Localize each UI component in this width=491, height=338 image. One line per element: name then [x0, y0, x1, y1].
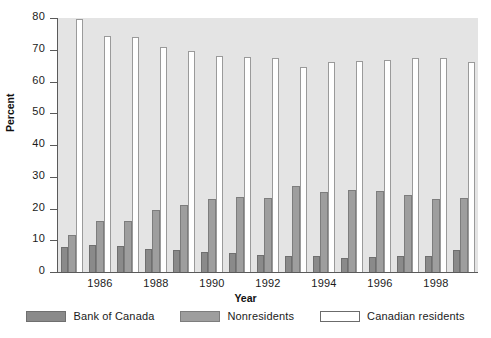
- x-axis-tick-label: 1986: [80, 277, 120, 289]
- bar: [432, 199, 439, 272]
- x-axis-tick-label: 1994: [304, 277, 344, 289]
- bar: [257, 255, 264, 272]
- bar: [425, 256, 432, 273]
- bar: [300, 67, 307, 272]
- bar: [328, 62, 335, 273]
- legend-item: Canadian residents: [320, 310, 464, 322]
- bar-group: [198, 18, 226, 272]
- bar: [244, 57, 251, 272]
- legend-item: Bank of Canada: [26, 310, 154, 322]
- x-axis-tick-label: 1988: [136, 277, 176, 289]
- bar: [152, 210, 159, 272]
- y-axis-tick-label: 60: [15, 74, 45, 86]
- bar-group: [366, 18, 394, 272]
- legend-swatch: [26, 311, 66, 322]
- bar: [272, 58, 279, 272]
- bar-group: [254, 18, 282, 272]
- legend-label: Bank of Canada: [73, 310, 154, 322]
- bar: [201, 252, 208, 272]
- bar: [145, 249, 152, 272]
- bar: [320, 192, 327, 272]
- y-axis-tick-mark: [50, 113, 57, 114]
- bar-group: [114, 18, 142, 272]
- bar: [376, 191, 383, 272]
- bar: [89, 245, 96, 272]
- bar: [188, 51, 195, 272]
- legend-item: Nonresidents: [180, 310, 294, 322]
- bar: [285, 256, 292, 272]
- bar-group: [86, 18, 114, 272]
- bar: [216, 56, 223, 272]
- bar: [104, 36, 111, 272]
- bar: [460, 198, 467, 272]
- bar: [124, 221, 131, 272]
- x-axis-tick-label: 1990: [192, 277, 232, 289]
- y-axis-tick-label: 70: [15, 42, 45, 54]
- y-axis-tick-mark: [50, 82, 57, 83]
- y-axis-tick-label: 20: [15, 201, 45, 213]
- y-axis-tick-mark: [50, 145, 57, 146]
- y-axis-tick-label: 30: [15, 169, 45, 181]
- chart-legend: Bank of CanadaNonresidentsCanadian resid…: [0, 310, 491, 322]
- x-axis-tick-label: 1992: [248, 277, 288, 289]
- legend-swatch: [180, 311, 220, 322]
- bar: [61, 247, 68, 272]
- y-axis-tick-label: 40: [15, 137, 45, 149]
- y-axis-tick-label: 80: [15, 10, 45, 22]
- bar: [453, 250, 460, 272]
- bar: [264, 198, 271, 272]
- y-axis-tick-label: 50: [15, 105, 45, 117]
- bar: [292, 186, 299, 272]
- bar-group: [142, 18, 170, 272]
- bar: [348, 190, 355, 272]
- bar: [468, 62, 475, 272]
- bar: [68, 235, 75, 272]
- bar: [236, 197, 243, 272]
- bar: [356, 61, 363, 272]
- y-axis-tick-mark: [50, 18, 57, 19]
- y-axis-label: Percent: [4, 116, 16, 132]
- bar: [369, 257, 376, 272]
- bar: [397, 256, 404, 272]
- legend-label: Canadian residents: [367, 310, 464, 322]
- bar: [180, 205, 187, 272]
- bar: [76, 19, 83, 272]
- bar-group: [282, 18, 310, 272]
- x-axis-label: Year: [0, 292, 491, 304]
- y-axis-tick-mark: [50, 272, 57, 273]
- bar: [208, 199, 215, 272]
- bars-layer: [58, 18, 478, 272]
- bar-group: [170, 18, 198, 272]
- legend-label: Nonresidents: [227, 310, 294, 322]
- bar-group: [58, 18, 86, 272]
- bar-group: [394, 18, 422, 272]
- y-axis-tick-mark: [50, 209, 57, 210]
- chart-page: Percent 01020304050607080 19861988199019…: [0, 0, 491, 338]
- bar: [160, 47, 167, 272]
- bar: [384, 60, 391, 272]
- y-axis-tick-label: 0: [15, 264, 45, 276]
- bar: [96, 221, 103, 272]
- bar: [132, 37, 139, 272]
- bar: [117, 246, 124, 272]
- bar-group: [450, 18, 478, 272]
- x-axis-line: [57, 272, 478, 273]
- x-axis-tick-label: 1996: [360, 277, 400, 289]
- bar-group: [422, 18, 450, 272]
- bar: [404, 195, 411, 272]
- bar: [412, 58, 419, 272]
- y-axis-tick-mark: [50, 240, 57, 241]
- bar-group: [310, 18, 338, 272]
- y-axis-tick-mark: [50, 177, 57, 178]
- bar-group: [226, 18, 254, 272]
- bar: [313, 256, 320, 272]
- y-axis-tick-label: 10: [15, 232, 45, 244]
- y-axis-tick-mark: [50, 50, 57, 51]
- bar: [440, 58, 447, 272]
- bar: [229, 253, 236, 272]
- bar-group: [338, 18, 366, 272]
- x-axis-tick-label: 1998: [416, 277, 456, 289]
- bar: [173, 250, 180, 272]
- bar: [341, 258, 348, 272]
- legend-swatch: [320, 311, 360, 322]
